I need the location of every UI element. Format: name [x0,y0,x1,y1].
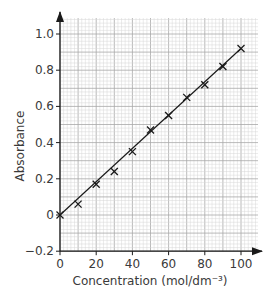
y-tick-label: 0.2 [35,172,54,186]
x-tick-label: 0 [56,257,64,271]
y-tick-label: 0.6 [35,99,54,113]
x-tick-label: 60 [161,257,176,271]
y-tick-label: 0 [46,208,54,222]
x-tick-label: 40 [125,257,140,271]
grid [60,18,258,251]
absorbance-concentration-chart: −0.200.20.40.60.81.0020406080100 Concent… [0,0,264,294]
tick-labels: −0.200.20.40.60.81.0020406080100 [25,27,253,271]
y-tick-label: 1.0 [35,27,54,41]
x-tick-label: 100 [230,257,253,271]
x-axis-title: Concentration (mol/dm⁻³) [73,274,228,288]
y-tick-label: 0.8 [35,63,54,77]
y-tick-label: −0.2 [25,244,54,258]
x-tick-label: 80 [197,257,212,271]
x-tick-label: 20 [89,257,104,271]
y-tick-label: 0.4 [35,136,54,150]
y-axis-title: Absorbance [13,111,27,182]
